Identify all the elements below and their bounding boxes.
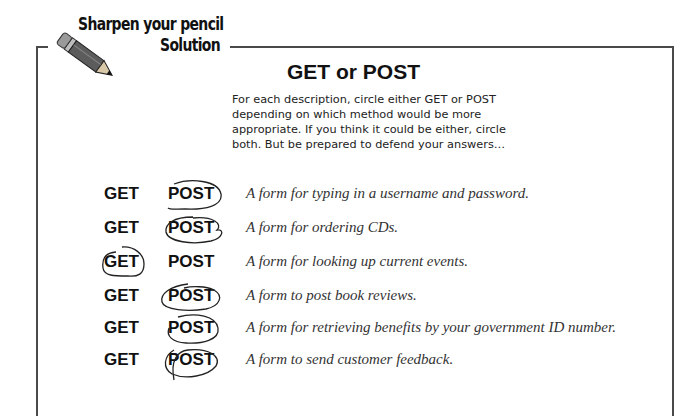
get-option[interactable]: GET [104, 184, 139, 204]
form-description: A form to post book reviews. [246, 287, 417, 304]
get-option[interactable]: GET [104, 286, 139, 306]
pencil-icon [50, 30, 125, 85]
form-description: A form for ordering CDs. [246, 219, 398, 236]
answer-row: GET POST A form for ordering CDs. [0, 214, 696, 244]
post-option[interactable]: POST [168, 286, 214, 306]
form-description: A form for looking up current events. [246, 253, 468, 270]
exercise-instructions: For each description, circle either GET … [232, 92, 532, 152]
get-option[interactable]: GET [104, 218, 139, 238]
post-option[interactable]: POST [168, 350, 214, 370]
exercise-title: GET or POST [287, 60, 420, 84]
banner-subtitle: Solution [160, 35, 220, 55]
frame-top-right [230, 46, 674, 48]
get-option[interactable]: GET [104, 350, 139, 370]
form-description: A form for typing in a username and pass… [246, 185, 529, 202]
answer-row: GET POST A form for retrieving benefits … [0, 314, 696, 344]
post-option[interactable]: POST [168, 218, 214, 238]
answer-row: GET POST A form for typing in a username… [0, 180, 696, 210]
get-option[interactable]: GET [104, 318, 139, 338]
form-description: A form to send customer feedback. [246, 351, 453, 368]
get-option[interactable]: GET [104, 252, 139, 272]
post-option[interactable]: POST [168, 184, 214, 204]
answer-row: GET POST A form to send customer feedbac… [0, 346, 696, 376]
form-description: A form for retrieving benefits by your g… [246, 319, 616, 336]
answer-row: GET POST A form to post book reviews. [0, 282, 696, 312]
answer-row: GET POST A form for looking up current e… [0, 248, 696, 278]
post-option[interactable]: POST [168, 318, 214, 338]
post-option[interactable]: POST [168, 252, 214, 272]
banner-title: Sharpen your pencil [78, 14, 223, 34]
